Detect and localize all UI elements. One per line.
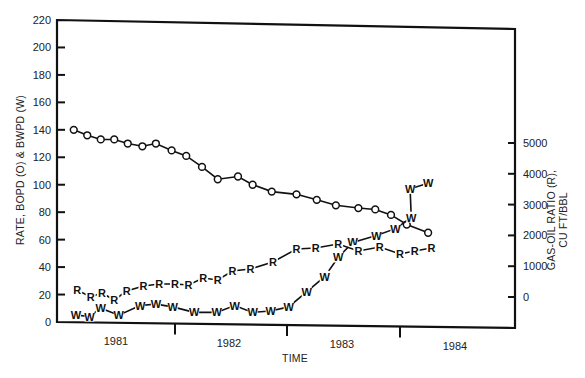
time-tick-label: 1983 bbox=[330, 338, 354, 350]
water-point: W bbox=[229, 300, 240, 312]
right-axis-title-line1: GAS-OIL RATIO (R), bbox=[545, 170, 557, 270]
gor-point: R bbox=[73, 284, 81, 296]
right-tick-label: 1000 bbox=[523, 260, 547, 272]
oil-point bbox=[84, 132, 91, 139]
gor-point: R bbox=[155, 278, 163, 290]
gor-point: R bbox=[199, 272, 207, 284]
left-tick-label: 20 bbox=[39, 289, 51, 301]
gor-point: R bbox=[396, 248, 404, 260]
time-tick-label: 1981 bbox=[104, 335, 128, 347]
oil-point bbox=[293, 191, 300, 198]
gor-point: R bbox=[376, 241, 384, 253]
gor-point: R bbox=[246, 263, 254, 275]
left-tick-label: 40 bbox=[39, 261, 51, 273]
right-tick-label: 5000 bbox=[523, 137, 547, 149]
left-tick-label: 160 bbox=[33, 96, 51, 108]
gor-point: R bbox=[185, 279, 193, 291]
production-history-chart: 020406080100120140160180200220 010002000… bbox=[0, 0, 585, 378]
gor-point: R bbox=[411, 245, 419, 257]
oil-point bbox=[372, 206, 379, 213]
oil-point bbox=[313, 196, 320, 203]
left-tick-label: 200 bbox=[33, 41, 51, 53]
oil-point bbox=[332, 202, 339, 209]
oil-point bbox=[199, 163, 206, 170]
water-point: W bbox=[265, 305, 276, 317]
gor-point: R bbox=[171, 278, 179, 290]
gor-point: R bbox=[214, 274, 222, 286]
oil-point bbox=[124, 140, 131, 147]
gor-point: R bbox=[123, 285, 131, 297]
oil-point bbox=[355, 205, 362, 212]
right-tick-label: 0 bbox=[523, 291, 529, 303]
oil-point bbox=[249, 181, 256, 188]
left-axis-title: RATE, BOPD (O) & BWPD (W) bbox=[14, 95, 26, 245]
water-point: W bbox=[405, 183, 416, 195]
left-tick-label: 0 bbox=[45, 316, 51, 328]
oil-point bbox=[168, 147, 175, 154]
series-o bbox=[70, 126, 431, 236]
left-tick-label: 180 bbox=[33, 69, 51, 81]
plot-border bbox=[57, 20, 515, 328]
gor-point: R bbox=[98, 287, 106, 299]
oil-point bbox=[235, 173, 242, 180]
water-point: W bbox=[319, 271, 330, 283]
water-point: W bbox=[406, 212, 417, 224]
left-tick-label: 120 bbox=[33, 151, 51, 163]
left-axis: 020406080100120140160180200220 bbox=[33, 14, 65, 328]
water-point: W bbox=[371, 230, 382, 242]
oil-point bbox=[152, 140, 159, 147]
water-point: W bbox=[135, 300, 146, 312]
water-point: W bbox=[423, 177, 434, 189]
right-axis-title-line2: CU FT/BBL bbox=[557, 192, 569, 247]
oil-point bbox=[388, 212, 395, 219]
gor-point: R bbox=[228, 265, 236, 277]
right-tick-label: 4000 bbox=[523, 168, 547, 180]
gor-point: R bbox=[312, 242, 320, 254]
water-point: W bbox=[390, 223, 401, 235]
time-tick-label: 1982 bbox=[217, 337, 241, 349]
time-tick-label: 1984 bbox=[443, 340, 467, 352]
series-r: RRRRRRRRRRRRRRRRRRRRRR bbox=[72, 238, 436, 306]
oil-point bbox=[425, 229, 432, 236]
gor-point: R bbox=[140, 280, 148, 292]
water-point: W bbox=[211, 306, 222, 318]
gor-point: R bbox=[334, 238, 342, 250]
series-layer: WWWWWWWWWWWWWWWWWWWWWWRRRRRRRRRRRRRRRRRR… bbox=[70, 126, 436, 322]
water-point: W bbox=[96, 302, 107, 314]
gor-point: R bbox=[269, 256, 277, 268]
water-point: W bbox=[71, 309, 82, 321]
gor-point: R bbox=[293, 243, 301, 255]
gor-point: R bbox=[354, 245, 362, 257]
right-tick-label: 3000 bbox=[523, 199, 547, 211]
water-point: W bbox=[333, 251, 344, 263]
water-point: W bbox=[247, 306, 258, 318]
gor-point: R bbox=[87, 291, 95, 303]
oil-point bbox=[139, 143, 146, 150]
left-tick-label: 80 bbox=[39, 206, 51, 218]
oil-point bbox=[70, 126, 77, 133]
right-tick-label: 2000 bbox=[523, 229, 547, 241]
water-point: W bbox=[168, 301, 179, 313]
left-tick-label: 140 bbox=[33, 124, 51, 136]
plot-frame bbox=[57, 20, 515, 328]
left-tick-label: 100 bbox=[33, 179, 51, 191]
gor-point: R bbox=[428, 242, 436, 254]
gor-point: R bbox=[110, 294, 118, 306]
oil-point bbox=[268, 188, 275, 195]
oil-point bbox=[97, 136, 104, 143]
oil-point bbox=[214, 176, 221, 183]
water-point: W bbox=[114, 309, 125, 321]
oil-point bbox=[183, 153, 190, 160]
x-axis-title: TIME bbox=[282, 352, 308, 364]
water-point: W bbox=[189, 306, 200, 318]
water-point: W bbox=[151, 298, 162, 310]
left-tick-label: 220 bbox=[33, 14, 51, 26]
left-tick-label: 60 bbox=[39, 234, 51, 246]
water-point: W bbox=[84, 311, 95, 323]
oil-point bbox=[111, 136, 118, 143]
water-point: W bbox=[301, 286, 312, 298]
water-point: W bbox=[283, 301, 294, 313]
